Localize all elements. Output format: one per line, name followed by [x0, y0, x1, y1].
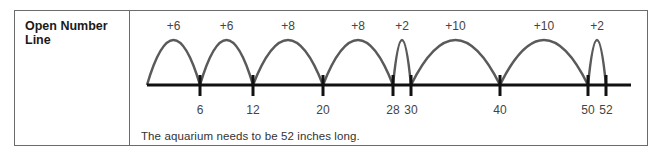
jump-arc — [147, 40, 200, 85]
tick-label: 12 — [246, 103, 260, 117]
jump-arc — [200, 40, 253, 85]
jump-label: +2 — [395, 19, 409, 33]
tick-label: 20 — [316, 103, 330, 117]
jump-label: +8 — [281, 19, 295, 33]
tick-label: 40 — [493, 103, 507, 117]
tick-label: 52 — [599, 103, 613, 117]
ticks: 612202830405052 — [197, 75, 613, 117]
tick-label: 50 — [581, 103, 595, 117]
jump-label: +8 — [351, 19, 365, 33]
jump-label: +6 — [167, 19, 181, 33]
number-line-diagram: 612202830405052 +6+6+8+8+2+10+10+2 — [0, 0, 663, 158]
jump-arc — [323, 40, 393, 85]
tick-label: 30 — [404, 103, 418, 117]
tick-label: 28 — [386, 103, 400, 117]
jump-label: +10 — [534, 19, 555, 33]
jump-arcs — [147, 40, 606, 85]
jump-arc — [588, 40, 606, 85]
tick-label: 6 — [197, 103, 204, 117]
jump-arc — [411, 40, 500, 85]
jump-arc — [500, 40, 588, 85]
jump-label: +6 — [220, 19, 234, 33]
jump-labels: +6+6+8+8+2+10+10+2 — [167, 19, 605, 33]
jump-arc — [393, 40, 411, 85]
jump-arc — [253, 40, 323, 85]
jump-label: +2 — [590, 19, 604, 33]
jump-label: +10 — [445, 19, 466, 33]
